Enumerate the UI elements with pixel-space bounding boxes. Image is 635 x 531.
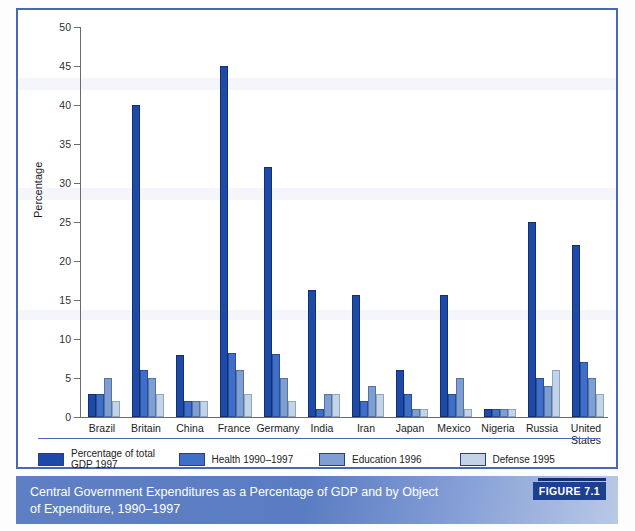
bar-group (264, 27, 296, 417)
y-tick (74, 27, 80, 28)
legend-swatch (319, 453, 345, 466)
bar (324, 394, 332, 417)
bar (448, 394, 456, 417)
bar (492, 409, 500, 417)
bar (544, 386, 552, 417)
bar (572, 245, 580, 417)
x-axis-line (80, 417, 608, 418)
bar (420, 409, 428, 417)
y-tick-label: 15 (59, 294, 71, 306)
category-label: China (168, 423, 212, 435)
bar (360, 401, 368, 417)
bar (156, 394, 164, 417)
bar (308, 290, 316, 417)
y-axis-line (80, 27, 81, 417)
y-tick-label: 45 (59, 60, 71, 72)
bar (228, 353, 236, 417)
bar (332, 394, 340, 417)
bar (132, 105, 140, 417)
caption-bar: Central Government Expenditures as a Per… (16, 476, 618, 524)
y-tick (74, 105, 80, 106)
bar (396, 370, 404, 417)
bar (464, 409, 472, 417)
bar (112, 401, 120, 417)
legend-swatch (38, 453, 64, 466)
bar (376, 394, 384, 417)
category-label: Britain (124, 423, 168, 435)
chart-legend: Percentage of total GDP 1997Health 1990–… (38, 446, 600, 472)
y-tick-label: 20 (59, 255, 71, 267)
bar (456, 378, 464, 417)
category-label: Japan (388, 423, 432, 435)
bar (552, 370, 560, 417)
y-axis-title: Percentage (32, 162, 44, 218)
bar (588, 378, 596, 417)
legend-item: Defense 1995 (460, 453, 601, 466)
bar (192, 401, 200, 417)
legend-item: Percentage of total GDP 1997 (38, 448, 179, 470)
y-tick-label: 25 (59, 216, 71, 228)
bar (264, 167, 272, 417)
bar (184, 401, 192, 417)
bar (536, 378, 544, 417)
bar (484, 409, 492, 417)
legend-item: Education 1996 (319, 453, 460, 466)
y-tick-label: 30 (59, 177, 71, 189)
bar (176, 355, 184, 417)
bar-group (308, 27, 340, 417)
bar-group (396, 27, 428, 417)
bar-group (176, 27, 208, 417)
bar (368, 386, 376, 417)
bar (316, 409, 324, 417)
figure-tag-accent (538, 478, 606, 481)
legend-swatch (460, 453, 486, 466)
y-tick-label: 40 (59, 99, 71, 111)
bar (236, 370, 244, 417)
legend-item: Health 1990–1997 (179, 453, 320, 466)
bar (200, 401, 208, 417)
y-tick (74, 144, 80, 145)
bar-group (352, 27, 384, 417)
y-tick-label: 5 (65, 372, 71, 384)
figure-tag: FIGURE 7.1 (533, 482, 606, 500)
y-tick (74, 339, 80, 340)
bar (104, 378, 112, 417)
bar (96, 394, 104, 417)
bar-group (220, 27, 252, 417)
category-label: Nigeria (476, 423, 520, 435)
bar (272, 354, 280, 417)
y-tick (74, 417, 80, 418)
category-label: France (212, 423, 256, 435)
y-tick-label: 35 (59, 138, 71, 150)
y-tick-label: 50 (59, 21, 71, 33)
bar (596, 394, 604, 417)
category-label: United States (564, 423, 608, 446)
bar (244, 394, 252, 417)
legend-label: Defense 1995 (493, 454, 555, 465)
bar (412, 409, 420, 417)
plot-area: 05101520253035404550 BrazilBritainChinaF… (80, 27, 608, 417)
bar-group (132, 27, 164, 417)
legend-divider (38, 438, 600, 439)
legend-label: Health 1990–1997 (212, 454, 294, 465)
bar (404, 394, 412, 417)
chart-panel: 05101520253035404550 BrazilBritainChinaF… (16, 8, 618, 469)
bar (140, 370, 148, 417)
bar (280, 378, 288, 417)
bar (352, 295, 360, 417)
category-label: Iran (344, 423, 388, 435)
y-tick (74, 66, 80, 67)
legend-swatch (179, 453, 205, 466)
bar-group (484, 27, 516, 417)
figure-page: 05101520253035404550 BrazilBritainChinaF… (0, 0, 635, 531)
bar (220, 66, 228, 417)
y-tick (74, 261, 80, 262)
bar (148, 378, 156, 417)
category-label: Brazil (80, 423, 124, 435)
y-tick-label: 0 (65, 411, 71, 423)
caption-text: Central Government Expenditures as a Per… (30, 484, 450, 518)
bar-group (572, 27, 604, 417)
bar-group (440, 27, 472, 417)
y-tick (74, 222, 80, 223)
bar (440, 295, 448, 417)
